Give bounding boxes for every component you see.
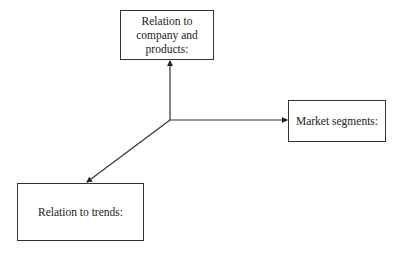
node-relation-to-company: Relation to company and products: <box>120 10 214 60</box>
node-label-line: Relation to trends: <box>38 205 123 219</box>
node-label-line: company and <box>136 28 198 42</box>
node-label-line: products: <box>146 42 189 56</box>
node-label-line: Relation to <box>142 14 193 28</box>
arrow-to-bottom <box>87 120 170 182</box>
node-market-segments: Market segments: <box>288 100 386 142</box>
node-relation-to-trends: Relation to trends: <box>17 183 144 241</box>
node-label-line: Market segments: <box>296 114 378 128</box>
